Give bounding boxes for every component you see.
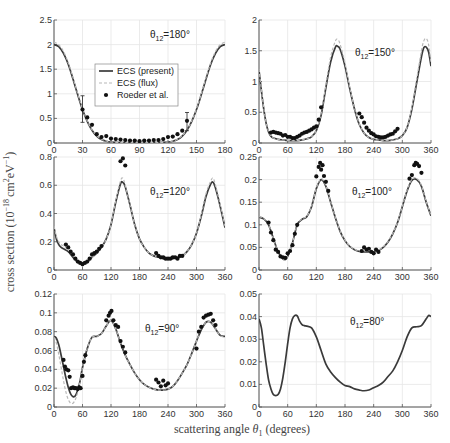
data-point-roeder: [357, 111, 361, 115]
panel-annotation: θ12=80°: [350, 316, 384, 329]
x-tick-label: 180: [337, 409, 352, 419]
data-point-roeder: [66, 368, 70, 372]
panel-top-right: 06012018024030036000.511.52θ12=150°: [244, 15, 438, 155]
panel-annotation: θ12=100°: [352, 186, 392, 199]
data-point-roeder: [271, 238, 275, 242]
data-point-roeder: [79, 386, 83, 390]
data-point-roeder: [180, 129, 184, 133]
x-tick-label: 60: [77, 272, 87, 282]
figure: 030609012015018000.511.522.5θ12=180°ECS …: [0, 0, 450, 443]
x-tick-label: 120: [309, 145, 324, 155]
data-point-roeder: [156, 380, 160, 384]
data-point-roeder: [199, 325, 203, 329]
data-point-roeder: [410, 173, 414, 177]
y-tick-label: 0.02: [34, 383, 52, 393]
legend-label: Roeder et al.: [117, 90, 169, 100]
y-tick-label: 0.15: [239, 197, 257, 207]
x-tick-label: 0: [51, 145, 56, 155]
x-tick-label: 360: [217, 409, 232, 419]
x-tick-label: 0: [256, 145, 261, 155]
data-point-roeder: [171, 135, 175, 139]
x-tick-label: 360: [423, 272, 438, 282]
y-tick-label: 0.25: [239, 152, 257, 162]
data-point-roeder: [104, 318, 108, 322]
data-point-roeder: [88, 257, 92, 261]
data-point-roeder: [283, 256, 287, 260]
data-point-roeder: [137, 139, 141, 143]
x-tick-label: 240: [160, 409, 175, 419]
data-point-roeder: [99, 244, 103, 248]
y-tick-label: 0.2: [244, 175, 257, 185]
data-point-roeder: [118, 339, 122, 343]
panel-middle-right: 06012018024030036000.050.10.150.20.25θ12…: [239, 152, 438, 282]
data-point-roeder: [395, 127, 399, 131]
y-tick-label: 0: [47, 138, 52, 148]
x-tick-label: 300: [395, 409, 410, 419]
x-tick-label: 180: [337, 272, 352, 282]
x-tick-label: 120: [309, 272, 324, 282]
y-tick-label: 1.5: [244, 46, 257, 56]
data-point-roeder: [290, 243, 294, 247]
y-tick-label: 0.03: [239, 334, 257, 344]
x-tick-label: 180: [132, 409, 147, 419]
data-point-roeder: [324, 180, 328, 184]
y-tick-label: 0.02: [239, 357, 257, 367]
y-tick-label: 1.5: [39, 64, 52, 74]
data-point-roeder: [61, 358, 65, 362]
x-tick-label: 60: [283, 409, 293, 419]
y-tick-label: 0.05: [239, 289, 257, 299]
x-tick-label: 240: [366, 145, 381, 155]
y-axis-label: cross section (10−18cm2eV−1): [2, 152, 17, 292]
panel-bottom-right: 06012018024030036000.010.020.030.040.05θ…: [239, 289, 438, 419]
data-point-roeder: [376, 250, 380, 254]
data-point-roeder: [211, 318, 215, 322]
data-point-roeder: [83, 353, 87, 357]
legend-label: ECS (flux): [117, 78, 158, 88]
legend: ECS (present)ECS (flux)Roeder et al.: [95, 64, 178, 106]
y-tick-label: 1: [47, 89, 52, 99]
y-tick-label: 2.5: [39, 15, 52, 25]
x-tick-label: 0: [51, 409, 56, 419]
x-tick-label: 0: [51, 272, 56, 282]
panel-middle-left: 06012018024030036000.20.40.60.8θ12=120°: [39, 152, 232, 282]
data-point-roeder: [123, 350, 127, 354]
data-point-roeder: [166, 135, 170, 139]
data-point-roeder: [123, 163, 127, 167]
data-point-roeder: [266, 220, 270, 224]
x-tick-label: 60: [106, 145, 116, 155]
y-tick-label: 0: [252, 265, 257, 275]
data-point-roeder: [166, 381, 170, 385]
data-point-roeder: [213, 323, 217, 327]
y-tick-label: 2: [252, 15, 257, 25]
data-point-roeder: [121, 345, 125, 349]
y-tick-label: 0.5: [244, 107, 257, 117]
data-point-roeder: [314, 174, 318, 178]
data-point-roeder: [317, 118, 321, 122]
y-tick-label: 0: [47, 265, 52, 275]
x-tick-label: 60: [77, 409, 87, 419]
data-point-roeder: [123, 138, 127, 142]
x-tick-label: 60: [283, 145, 293, 155]
data-point-roeder: [180, 254, 184, 258]
x-tick-label: 0: [256, 272, 261, 282]
x-tick-label: 180: [337, 145, 352, 155]
data-point-roeder: [295, 223, 299, 227]
y-tick-label: 1: [252, 77, 257, 87]
x-tick-label: 360: [423, 409, 438, 419]
data-point-roeder: [319, 168, 323, 172]
y-tick-label: 0.08: [34, 327, 52, 337]
data-point-roeder: [209, 312, 213, 316]
data-point-roeder: [118, 137, 122, 141]
panel-annotation: θ12=120°: [150, 186, 190, 199]
y-tick-label: 0.5: [39, 113, 52, 123]
data-point-roeder: [121, 156, 125, 160]
y-tick-label: 0.12: [34, 289, 52, 299]
x-tick-label: 150: [189, 145, 204, 155]
y-tick-label: 0: [252, 138, 257, 148]
panel-annotation: θ12=90°: [145, 323, 179, 336]
panel-annotation: θ12=180°: [150, 29, 190, 42]
data-point-roeder: [185, 119, 189, 123]
y-tick-label: 0.8: [39, 152, 52, 162]
data-point-roeder: [99, 135, 103, 139]
data-point-roeder: [109, 309, 113, 313]
